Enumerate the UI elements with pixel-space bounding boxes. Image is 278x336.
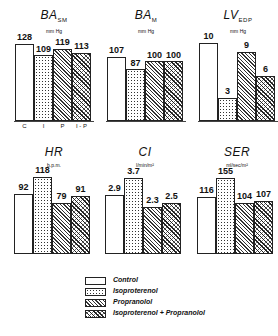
legend-item-propranolol: Propranolol bbox=[85, 298, 275, 309]
bar-control bbox=[14, 194, 33, 254]
value-label: 113 bbox=[71, 41, 92, 51]
bar-isoproterenol bbox=[34, 55, 53, 121]
bar-propranolol bbox=[145, 61, 164, 121]
bar-iso-propranolol bbox=[164, 61, 183, 121]
bar-propranolol bbox=[53, 49, 72, 121]
value-label: 87 bbox=[125, 58, 146, 68]
swatch-propranolol-icon bbox=[85, 299, 106, 307]
value-label: 119 bbox=[52, 37, 73, 47]
bar-propranolol bbox=[235, 203, 254, 254]
legend-label: Isoproterenol bbox=[113, 287, 158, 294]
value-label: 92 bbox=[13, 182, 34, 192]
swatch-isoproterenol-icon bbox=[85, 288, 106, 296]
value-label: 79 bbox=[51, 191, 72, 201]
panel-ser: SER ml/sec/m² 116 155 104 107 bbox=[197, 140, 277, 265]
value-label: 109 bbox=[33, 44, 54, 54]
baseline bbox=[14, 121, 94, 122]
value-label: 9 bbox=[236, 40, 257, 50]
legend-item-iso-propranolol: Isoproterenol + Propranolol bbox=[85, 309, 275, 320]
bar-propranolol bbox=[143, 207, 162, 254]
value-label: 107 bbox=[253, 189, 274, 199]
bar-iso-propranolol bbox=[162, 203, 181, 254]
value-label: 100 bbox=[163, 50, 184, 60]
value-label: 128 bbox=[14, 32, 35, 42]
x-tick: I bbox=[34, 123, 53, 129]
bar-propranolol bbox=[52, 203, 71, 254]
panel-ba-sm: BASM mm Hg 128 109 119 113 C I P I - P bbox=[14, 0, 94, 135]
value-label: 2.3 bbox=[142, 195, 163, 205]
bar-iso-propranolol bbox=[72, 53, 91, 121]
bar-propranolol bbox=[237, 52, 256, 121]
baseline bbox=[198, 121, 278, 122]
bar-control bbox=[15, 44, 34, 121]
value-label: 6 bbox=[255, 64, 276, 74]
value-label: 107 bbox=[106, 45, 127, 55]
value-label: 104 bbox=[234, 191, 255, 201]
panel-ci: CI l/min/m² 2.9 3.7 2.3 2.5 bbox=[105, 140, 185, 265]
bar-isoproterenol bbox=[124, 178, 143, 254]
legend-label: Control bbox=[113, 276, 138, 283]
bar-iso-propranolol bbox=[254, 201, 273, 254]
panel-ba-m: BAM mm Hg 107 87 100 100 bbox=[106, 0, 186, 135]
legend-item-isoproterenol: Isoproterenol bbox=[85, 287, 275, 298]
legend-label: Propranolol bbox=[113, 298, 152, 305]
bar-control bbox=[197, 197, 216, 254]
value-label: 3 bbox=[217, 86, 238, 96]
bar-iso-propranolol bbox=[71, 196, 90, 254]
value-label: 118 bbox=[32, 165, 53, 175]
swatch-control-icon bbox=[85, 277, 106, 285]
legend-item-control: Control bbox=[85, 276, 275, 287]
value-label: 91 bbox=[70, 184, 91, 194]
value-label: 100 bbox=[144, 50, 165, 60]
x-tick: P bbox=[53, 123, 72, 129]
panel-hr: HR b.p.m. 92 118 79 91 bbox=[14, 140, 94, 265]
value-label: 10 bbox=[198, 31, 219, 41]
bar-control bbox=[199, 43, 218, 121]
swatch-iso-propranolol-icon bbox=[85, 310, 106, 318]
bar-control bbox=[105, 195, 124, 254]
value-label: 3.7 bbox=[123, 166, 144, 176]
legend-label: Isoproterenol + Propranolol bbox=[113, 309, 205, 316]
bar-isoproterenol bbox=[33, 177, 52, 254]
bar-isoproterenol bbox=[218, 98, 237, 121]
bar-isoproterenol bbox=[126, 69, 145, 121]
value-label: 116 bbox=[196, 185, 217, 195]
x-tick: C bbox=[15, 123, 34, 129]
bar-iso-propranolol bbox=[256, 76, 275, 121]
bar-isoproterenol bbox=[216, 178, 235, 254]
bar-control bbox=[107, 57, 126, 121]
value-label: 155 bbox=[215, 166, 236, 176]
baseline bbox=[106, 121, 186, 122]
x-tick: I - P bbox=[72, 123, 91, 129]
value-label: 2.5 bbox=[161, 191, 182, 201]
panel-lv-edp: LVEDP mm Hg 10 3 9 6 bbox=[198, 0, 278, 135]
value-label: 2.9 bbox=[104, 183, 125, 193]
